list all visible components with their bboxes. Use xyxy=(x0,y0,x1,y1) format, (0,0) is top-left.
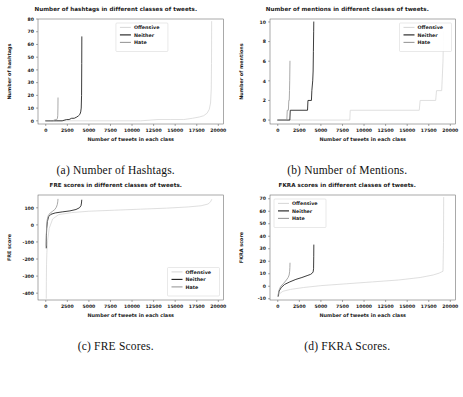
svg-text:-10: -10 xyxy=(257,296,265,301)
svg-text:20000: 20000 xyxy=(210,128,226,133)
svg-text:40: 40 xyxy=(259,234,265,239)
chart-svg-fre: 0250050007500100001250015000175002000010… xyxy=(0,190,232,330)
svg-text:10: 10 xyxy=(28,106,34,111)
svg-text:50: 50 xyxy=(28,55,34,60)
svg-text:4: 4 xyxy=(262,79,265,84)
svg-text:0: 0 xyxy=(276,128,279,133)
svg-text:12500: 12500 xyxy=(377,128,393,133)
svg-text:Number of mentions: Number of mentions xyxy=(238,43,244,100)
svg-text:15000: 15000 xyxy=(167,304,183,309)
svg-text:Number of tweets in each class: Number of tweets in each class xyxy=(88,136,175,142)
svg-text:17500: 17500 xyxy=(420,128,436,133)
svg-text:12500: 12500 xyxy=(146,304,162,309)
svg-text:70: 70 xyxy=(259,196,265,201)
svg-text:7500: 7500 xyxy=(104,128,117,133)
svg-text:Hate: Hate xyxy=(292,216,306,221)
panel-c: FRE scores in different classes of tweet… xyxy=(0,176,232,352)
figure-row-bottom: FRE scores in different classes of tweet… xyxy=(0,176,463,352)
chart-title-d: FKRA scores in different classes of twee… xyxy=(232,182,463,188)
svg-text:2500: 2500 xyxy=(292,304,305,309)
svg-text:100: 100 xyxy=(24,206,34,211)
svg-text:20000: 20000 xyxy=(442,128,458,133)
svg-text:20000: 20000 xyxy=(210,304,226,309)
svg-text:Offensive: Offensive xyxy=(186,270,212,275)
svg-text:15000: 15000 xyxy=(399,128,415,133)
svg-text:10000: 10000 xyxy=(356,304,372,309)
chart-title-c: FRE scores in different classes of tweet… xyxy=(0,182,232,188)
svg-text:20: 20 xyxy=(259,259,265,264)
svg-text:15000: 15000 xyxy=(399,304,415,309)
svg-text:20: 20 xyxy=(28,93,34,98)
svg-text:Hate: Hate xyxy=(417,40,431,45)
svg-text:5000: 5000 xyxy=(83,304,96,309)
chart-title-b: Number of mentions in different classes … xyxy=(232,6,463,12)
svg-text:10000: 10000 xyxy=(124,304,140,309)
svg-text:80: 80 xyxy=(28,17,34,22)
svg-text:Number of tweets in each class: Number of tweets in each class xyxy=(319,136,406,142)
svg-text:5000: 5000 xyxy=(314,304,327,309)
figure-grid: Number of hashtags in different classes … xyxy=(0,0,463,397)
svg-text:6: 6 xyxy=(262,59,265,64)
svg-text:Hate: Hate xyxy=(134,40,148,45)
svg-text:-200: -200 xyxy=(23,257,35,262)
svg-text:50: 50 xyxy=(259,221,265,226)
svg-text:17500: 17500 xyxy=(420,304,436,309)
svg-text:10000: 10000 xyxy=(124,128,140,133)
svg-text:-300: -300 xyxy=(23,274,35,279)
svg-text:5000: 5000 xyxy=(314,128,327,133)
svg-text:FRE score: FRE score xyxy=(6,233,12,261)
svg-text:Hate: Hate xyxy=(186,285,200,290)
chart-title-a: Number of hashtags in different classes … xyxy=(0,6,232,12)
svg-text:Number of tweets in each class: Number of tweets in each class xyxy=(319,312,406,318)
svg-text:0: 0 xyxy=(44,304,47,309)
svg-text:60: 60 xyxy=(28,42,34,47)
svg-text:0: 0 xyxy=(276,304,279,309)
chart-svg-mentions: 0250050007500100001250015000175002000002… xyxy=(232,14,463,154)
svg-text:2: 2 xyxy=(262,98,265,103)
svg-text:70: 70 xyxy=(28,29,34,34)
svg-text:7500: 7500 xyxy=(104,304,117,309)
svg-text:-400: -400 xyxy=(23,291,35,296)
svg-text:-100: -100 xyxy=(23,240,35,245)
plot-area-b: 0250050007500100001250015000175002000002… xyxy=(232,14,463,154)
svg-text:0: 0 xyxy=(262,284,265,289)
plot-area-a: 0250050007500100001250015000175002000001… xyxy=(0,14,232,154)
svg-text:30: 30 xyxy=(28,80,34,85)
svg-text:Neither: Neither xyxy=(292,209,313,214)
svg-text:Neither: Neither xyxy=(186,277,207,282)
svg-text:7500: 7500 xyxy=(336,304,349,309)
svg-text:15000: 15000 xyxy=(167,128,183,133)
svg-text:17500: 17500 xyxy=(189,304,205,309)
chart-svg-fkra: 02500500075001000012500150001750020000-1… xyxy=(232,190,463,330)
svg-text:8: 8 xyxy=(262,39,265,44)
svg-text:Neither: Neither xyxy=(134,33,155,38)
svg-text:Number of tweets in each class: Number of tweets in each class xyxy=(88,312,175,318)
svg-text:10000: 10000 xyxy=(356,128,372,133)
svg-text:17500: 17500 xyxy=(189,128,205,133)
panel-d: FKRA scores in different classes of twee… xyxy=(232,176,463,352)
svg-text:FKRA score: FKRA score xyxy=(238,231,244,263)
svg-text:Offensive: Offensive xyxy=(292,201,318,206)
svg-text:12500: 12500 xyxy=(146,128,162,133)
svg-text:0: 0 xyxy=(31,119,34,124)
svg-text:30: 30 xyxy=(259,246,265,251)
svg-text:2500: 2500 xyxy=(292,128,305,133)
svg-text:10: 10 xyxy=(259,20,265,25)
svg-text:10: 10 xyxy=(259,271,265,276)
svg-text:Offensive: Offensive xyxy=(134,25,160,30)
svg-text:2500: 2500 xyxy=(61,128,74,133)
plot-area-d: 02500500075001000012500150001750020000-1… xyxy=(232,190,463,330)
panel-b: Number of mentions in different classes … xyxy=(232,0,463,176)
svg-text:0: 0 xyxy=(44,128,47,133)
chart-svg-hashtags: 0250050007500100001250015000175002000001… xyxy=(0,14,232,154)
svg-text:60: 60 xyxy=(259,209,265,214)
plot-area-c: 0250050007500100001250015000175002000010… xyxy=(0,190,232,330)
svg-text:Number of hashtags: Number of hashtags xyxy=(6,43,13,99)
svg-text:Offensive: Offensive xyxy=(417,25,443,30)
svg-text:0: 0 xyxy=(262,118,265,123)
svg-text:Neither: Neither xyxy=(417,33,438,38)
svg-text:7500: 7500 xyxy=(336,128,349,133)
svg-text:12500: 12500 xyxy=(377,304,393,309)
figure-row-top: Number of hashtags in different classes … xyxy=(0,0,463,176)
panel-a: Number of hashtags in different classes … xyxy=(0,0,232,176)
